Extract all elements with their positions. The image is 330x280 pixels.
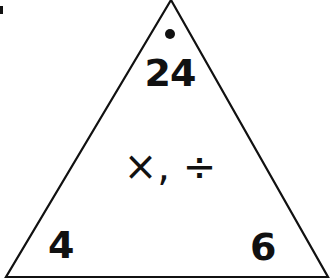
dot-marker: [165, 29, 175, 39]
bottom-left-number: 4: [48, 226, 74, 264]
operations-label: ×, ÷: [110, 146, 230, 186]
top-number: 24: [140, 54, 200, 92]
bottom-right-number: 6: [250, 228, 276, 266]
